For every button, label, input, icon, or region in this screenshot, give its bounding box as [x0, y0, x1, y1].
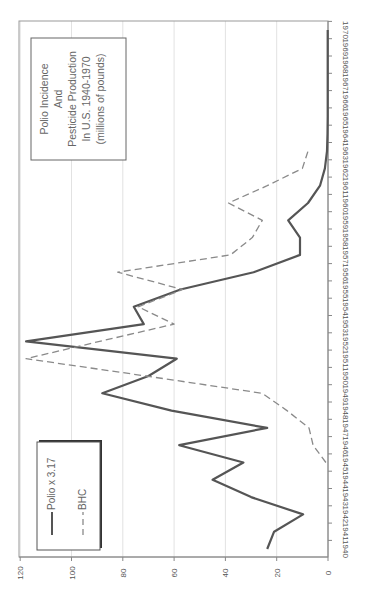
value-tick-label: 100 — [68, 566, 77, 580]
year-axis: 1940194119421943194419451946194719481949… — [328, 21, 350, 558]
year-tick-label: 1944 — [341, 471, 350, 489]
year-tick-label: 1961 — [341, 177, 350, 195]
year-tick-label: 1942 — [341, 506, 350, 524]
year-tick-label: 1950 — [341, 367, 350, 385]
year-tick-label: 1951 — [341, 350, 350, 368]
year-tick-label: 1956 — [341, 263, 350, 281]
year-tick-label: 1963 — [341, 142, 350, 160]
value-tick-label: 40 — [221, 568, 230, 577]
value-tick-label: 60 — [170, 568, 179, 577]
year-tick-label: 1947 — [341, 419, 350, 437]
year-tick-label: 1964 — [341, 125, 350, 143]
year-tick-label: 1940 — [341, 540, 350, 558]
year-tick-label: 1970 — [341, 21, 350, 39]
value-tick-label: 120 — [16, 566, 25, 580]
year-tick-label: 1968 — [341, 56, 350, 74]
chart-title-line-4: In U.S. 1940-1970 — [80, 56, 92, 141]
year-tick-label: 1969 — [341, 38, 350, 56]
value-tick-label: 80 — [119, 568, 128, 577]
chart-title-line-1: Polio Incidence — [38, 63, 50, 134]
year-tick-label: 1946 — [341, 436, 350, 454]
year-tick-label: 1949 — [341, 384, 350, 402]
year-tick-label: 1955 — [341, 281, 350, 299]
year-tick-label: 1953 — [341, 315, 350, 333]
legend-bhc-label: BHC — [77, 489, 88, 510]
year-tick-label: 1958 — [341, 229, 350, 247]
chart-title-box: Polio Incidence And Pesticide Production… — [31, 38, 126, 160]
value-tick-label: 20 — [273, 568, 282, 577]
chart-title-line-5: (millions of pounds) — [94, 53, 106, 144]
year-tick-label: 1959 — [341, 211, 350, 229]
year-tick-label: 1962 — [341, 160, 350, 178]
value-tick-label: 0 — [324, 570, 333, 575]
year-tick-label: 1943 — [341, 488, 350, 506]
year-tick-label: 1954 — [341, 298, 350, 316]
year-tick-label: 1965 — [341, 108, 350, 126]
chart-title-line-3: Pesticide Production — [66, 51, 78, 147]
rotated-line-chart: 1940194119421943194419451946194719481949… — [0, 0, 371, 602]
year-tick-label: 1960 — [341, 194, 350, 212]
legend: Polio x 3.17 BHC — [37, 440, 102, 550]
year-tick-label: 1957 — [341, 246, 350, 264]
year-tick-label: 1941 — [341, 523, 350, 541]
year-tick-label: 1967 — [341, 73, 350, 91]
chart-title-line-2: And — [52, 90, 64, 109]
year-tick-label: 1966 — [341, 90, 350, 108]
legend-polio-label: Polio x 3.17 — [46, 457, 57, 510]
year-tick-label: 1945 — [341, 454, 350, 472]
year-tick-label: 1952 — [341, 333, 350, 351]
year-tick-label: 1948 — [341, 402, 350, 420]
value-axis: 020406080100120 — [16, 557, 333, 580]
